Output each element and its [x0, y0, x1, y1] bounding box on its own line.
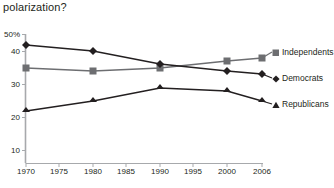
- legend-label: Democrats: [282, 74, 323, 83]
- x-tick-label: 1975: [44, 168, 74, 176]
- data-point-marker: [223, 87, 231, 92]
- data-point-marker: [89, 47, 97, 55]
- x-tick-label: 1990: [145, 168, 175, 176]
- data-point-marker: [22, 41, 30, 49]
- y-tick-label: 20: [0, 114, 20, 122]
- square-marker-icon: [272, 49, 280, 57]
- data-point-marker: [224, 58, 231, 65]
- x-tick-label: 2000: [212, 168, 242, 176]
- x-tick-label: 1995: [178, 168, 208, 176]
- x-tick-label: 1980: [78, 168, 108, 176]
- data-point-marker: [23, 65, 30, 72]
- legend-label: Republicans: [282, 100, 329, 109]
- triangle-marker-icon: [272, 101, 280, 109]
- x-tick-label: 2006: [247, 168, 277, 176]
- y-tick-label: 40: [0, 48, 20, 56]
- diamond-marker-icon: [272, 75, 280, 83]
- data-point-marker: [89, 97, 97, 102]
- series-republicans: [22, 84, 266, 112]
- y-tick-label: 10: [0, 147, 20, 155]
- legend-label: Independents: [282, 48, 334, 57]
- y-tick-label: 50%: [0, 31, 20, 39]
- data-point-marker: [223, 67, 231, 75]
- data-point-marker: [90, 68, 97, 75]
- data-point-marker: [22, 107, 30, 112]
- data-point-marker: [156, 84, 164, 89]
- x-tick-label: 1970: [11, 168, 41, 176]
- y-tick-label: 30: [0, 81, 20, 89]
- x-tick-label: 1985: [111, 168, 141, 176]
